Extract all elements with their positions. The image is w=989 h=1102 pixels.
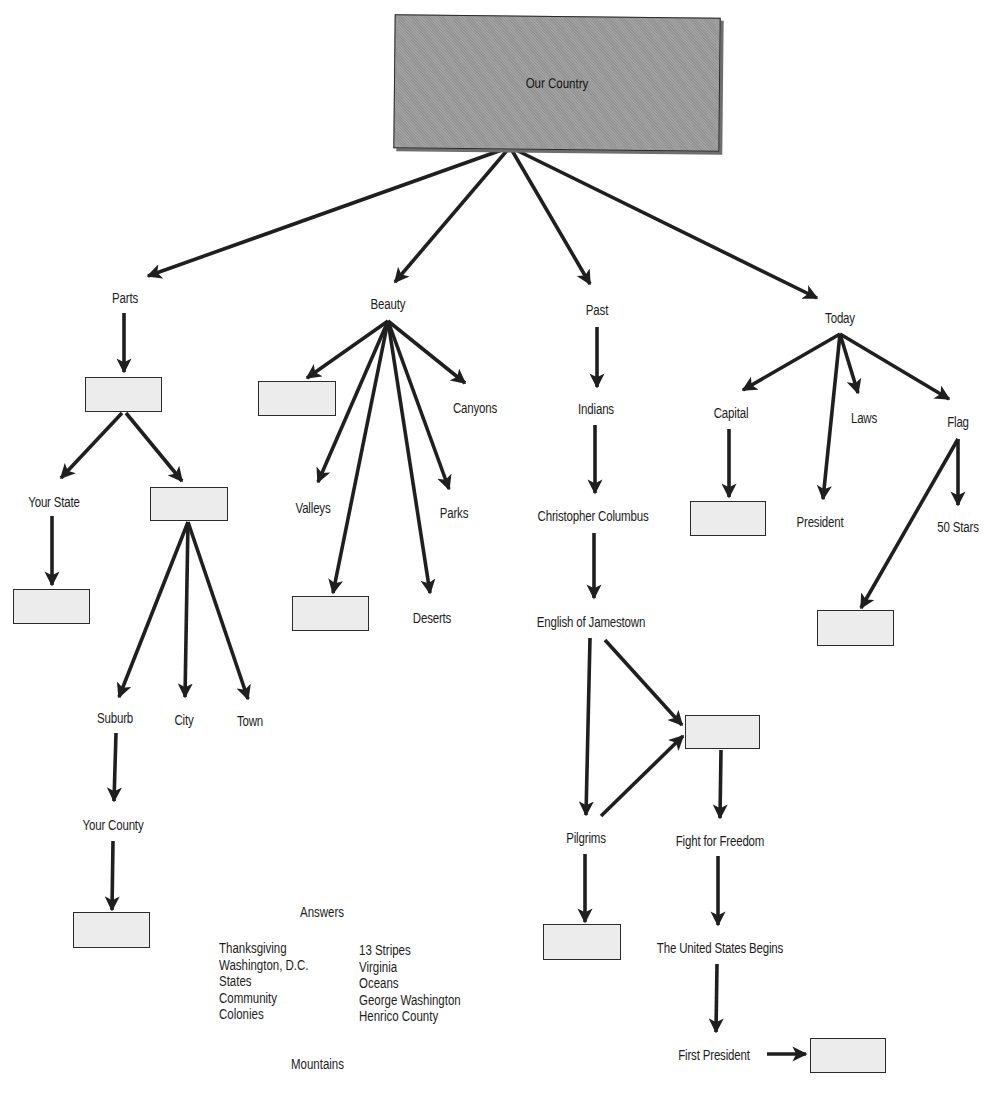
node-capital: Capital xyxy=(714,405,749,421)
blank-box-your-county[interactable] xyxy=(73,912,150,948)
node-town: Town xyxy=(237,713,263,729)
node-first-president: First President xyxy=(678,1047,750,1063)
concept-map: Our Country Parts Your State Suburb City… xyxy=(0,0,989,1102)
answer-column-2: 13 Stripes Virginia Oceans George Washin… xyxy=(359,942,461,1025)
blank-box-parts-right[interactable] xyxy=(150,487,228,521)
node-beauty: Beauty xyxy=(371,296,406,312)
answer-column-1: Thanksgiving Washington, D.C. States Com… xyxy=(219,940,309,1023)
blank-box-flag[interactable] xyxy=(817,610,894,646)
node-columbus: Christopher Columbus xyxy=(538,508,649,524)
node-your-state: Your State xyxy=(28,494,80,510)
blank-box-pilgrims[interactable] xyxy=(543,924,621,960)
node-city: City xyxy=(174,712,193,728)
node-your-county: Your County xyxy=(83,817,144,833)
blank-box-your-state[interactable] xyxy=(13,589,90,624)
node-deserts: Deserts xyxy=(413,610,451,626)
node-parts: Parts xyxy=(112,290,138,306)
blank-box-past-middle[interactable] xyxy=(685,715,760,749)
answer-item: Colonies xyxy=(219,1006,309,1023)
blank-box-first-president[interactable] xyxy=(810,1038,886,1073)
answer-item: Virginia xyxy=(359,959,461,976)
node-us-begins: The United States Begins xyxy=(657,940,783,956)
answer-item: Thanksgiving xyxy=(219,940,309,957)
root-title: Our Country xyxy=(526,75,589,92)
answer-item: Oceans xyxy=(359,975,461,992)
answer-item: States xyxy=(219,973,309,990)
root-node: Our Country xyxy=(393,14,720,151)
node-flag: Flag xyxy=(947,414,969,430)
node-past: Past xyxy=(586,302,608,318)
blank-box-beauty-bottom[interactable] xyxy=(292,596,369,631)
node-parks: Parks xyxy=(440,505,469,521)
node-canyons: Canyons xyxy=(453,400,497,416)
node-50-stars: 50 Stars xyxy=(937,519,978,535)
answer-item: George Washington xyxy=(359,992,461,1009)
node-laws: Laws xyxy=(851,410,877,426)
answer-item: Washington, D.C. xyxy=(219,957,309,974)
answer-item: Henrico County xyxy=(359,1008,461,1025)
node-jamestown: English of Jamestown xyxy=(537,614,645,630)
blank-box-parts[interactable] xyxy=(85,377,162,412)
node-fight-for-freedom: Fight for Freedom xyxy=(676,833,764,849)
node-pilgrims: Pilgrims xyxy=(566,830,606,846)
node-president: President xyxy=(796,514,843,530)
answer-item: Community xyxy=(219,990,309,1007)
blank-box-beauty-left[interactable] xyxy=(258,381,336,416)
node-today: Today xyxy=(825,310,855,326)
node-suburb: Suburb xyxy=(97,710,133,726)
answer-item-mountains: Mountains xyxy=(291,1056,344,1072)
blank-box-capital[interactable] xyxy=(690,501,766,536)
answer-bank-title: Answers xyxy=(300,904,344,920)
node-indians: Indians xyxy=(578,401,614,417)
answer-item: 13 Stripes xyxy=(359,942,461,959)
node-valleys: Valleys xyxy=(295,500,330,516)
